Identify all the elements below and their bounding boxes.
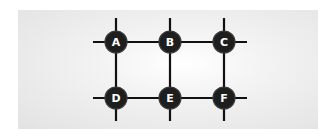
node-label: F xyxy=(220,92,228,105)
node-label: A xyxy=(112,36,121,49)
node-f: F xyxy=(213,87,235,109)
node-e: E xyxy=(159,87,181,109)
node-a: A xyxy=(105,31,127,53)
grid-diagram: A B C D E F xyxy=(0,0,335,137)
node-d: D xyxy=(105,87,127,109)
node-c: C xyxy=(213,31,235,53)
node-label: B xyxy=(166,36,174,49)
node-label: C xyxy=(220,36,228,49)
node-label: D xyxy=(111,92,120,105)
node-b: B xyxy=(159,31,181,53)
node-label: E xyxy=(166,92,174,105)
